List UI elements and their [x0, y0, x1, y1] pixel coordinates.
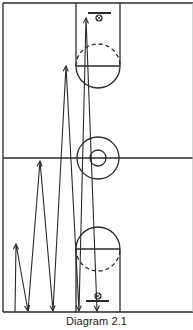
bottom-lane: [76, 227, 120, 312]
top-foul-circle-dashed: [76, 44, 120, 66]
top-foul-circle-solid: [76, 66, 120, 88]
bottom-foul-circle-solid: [76, 227, 120, 249]
diagram-caption: Diagram 2.1: [0, 315, 193, 327]
bottom-foul-circle-dashed: [76, 249, 120, 271]
drill-path: [15, 18, 97, 312]
court-diagram: [0, 0, 193, 316]
top-lane: [76, 3, 120, 88]
